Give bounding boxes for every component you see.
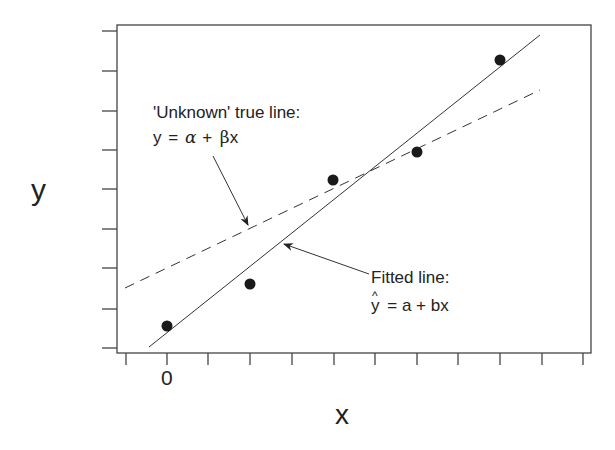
data-point (328, 175, 339, 186)
fitted-line-solid (149, 35, 540, 347)
fitted-line-equation: y = a + bx (371, 296, 449, 315)
true-line-equation: y = α + βx (153, 127, 239, 147)
data-point (245, 279, 256, 290)
fitted-line-title: Fitted line: (371, 268, 449, 287)
fitted-line-arrow-icon (284, 244, 369, 274)
y-axis-label: y (31, 173, 46, 206)
x-axis-ticks (126, 353, 583, 365)
regression-diagram: 'Unknown' true line: y = α + βx Fitted l… (0, 0, 615, 450)
data-point (495, 55, 506, 66)
plot-frame (117, 25, 591, 353)
x-tick-label-zero: 0 (161, 366, 173, 389)
data-points (162, 55, 506, 332)
x-axis-label: x (335, 399, 349, 430)
data-point (162, 321, 173, 332)
data-point (412, 147, 423, 158)
true-line-arrow-icon (213, 156, 248, 225)
y-axis-ticks (102, 31, 117, 348)
true-line-title: 'Unknown' true line: (153, 103, 300, 122)
